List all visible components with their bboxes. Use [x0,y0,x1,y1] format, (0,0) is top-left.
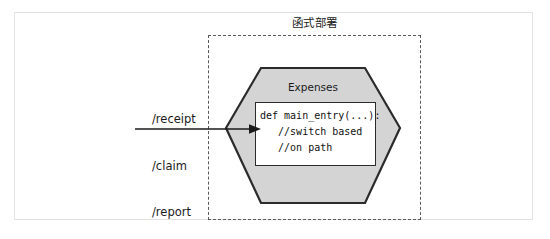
route-label: /receipt [152,112,196,128]
function-name-label: Expenses [226,81,400,93]
code-line: //on path [260,140,375,156]
incoming-request-arrow [130,118,265,140]
code-line: def main_entry(...): [260,108,375,124]
route-label: /report [152,205,196,221]
route-label: /claim [152,159,196,175]
code-line: //switch based [260,124,375,140]
deployment-title: 函式部署 [208,14,421,30]
diagram-canvas: 函式部署 Expenses def main_entry(...): //swi… [0,0,550,239]
code-box: def main_entry(...): //switch based //on… [255,102,376,166]
route-label-list: /receipt /claim /report [152,81,196,239]
